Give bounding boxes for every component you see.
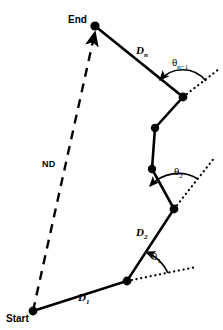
- d2-label: D2: [136, 227, 147, 241]
- path-diagram-figure: End Start ND D1 D2 Dn θ1 θ2 θn−1: [0, 0, 223, 330]
- theta1-subscript: 1: [157, 257, 161, 265]
- node-v3: [148, 165, 156, 173]
- thetan-extension-line: [183, 69, 219, 97]
- thetan-label: θn−1: [172, 57, 188, 71]
- theta1-label: θ1: [152, 251, 161, 265]
- thetan-arc: [160, 70, 206, 81]
- node-end: [90, 21, 99, 30]
- theta2-subscript: 2: [179, 172, 183, 180]
- theta1-extension-line: [127, 267, 196, 281]
- d1-subscript: 1: [86, 298, 90, 306]
- d1-label: D1: [78, 292, 89, 306]
- dn-subscript: n: [144, 51, 148, 59]
- end-label: End: [68, 15, 87, 25]
- d2-base: D: [136, 226, 144, 238]
- d1-base: D: [78, 291, 86, 303]
- start-label: Start: [6, 314, 29, 324]
- dn-label: Dn: [136, 45, 148, 59]
- d2-subscript: 2: [144, 233, 148, 241]
- node-v5: [179, 93, 188, 102]
- diagram-canvas: [0, 0, 223, 330]
- node-start: [29, 307, 38, 316]
- net-displacement-line: [33, 32, 95, 311]
- theta2-extension-line: [174, 157, 215, 209]
- dn-base: D: [136, 44, 144, 56]
- theta2-label: θ2: [174, 166, 183, 180]
- node-v4: [151, 124, 159, 132]
- node-v1: [123, 277, 132, 286]
- thetan-subscript: n−1: [177, 63, 188, 71]
- node-v2: [170, 205, 179, 214]
- net-displacement-label: ND: [42, 160, 56, 169]
